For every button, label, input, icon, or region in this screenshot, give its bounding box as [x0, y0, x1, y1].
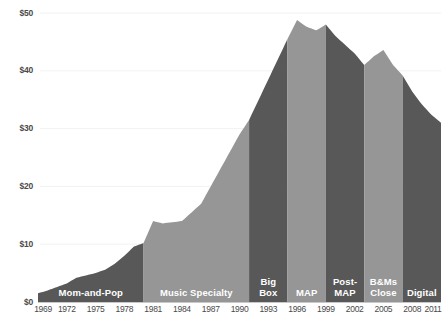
area-band-map	[287, 20, 325, 302]
x-tick-label: 1975	[87, 304, 105, 314]
x-tick-label: 1984	[173, 304, 191, 314]
area-band-mom-and-pop	[38, 243, 144, 302]
area-band-post-map	[326, 25, 364, 302]
y-tick-label: $10	[19, 240, 33, 249]
y-tick-label: $40	[19, 66, 33, 75]
x-tick-label: 1993	[259, 304, 277, 314]
x-tick-label: 1972	[58, 304, 76, 314]
x-tick-label: 1987	[202, 304, 220, 314]
x-tick-label: 1978	[115, 304, 133, 314]
area-band-music-specialty	[144, 120, 250, 302]
x-tick-label: 2002	[346, 304, 364, 314]
x-tick-label: 2008	[403, 304, 421, 314]
x-tick-label: 1981	[144, 304, 162, 314]
y-tick-label: $50	[19, 9, 33, 18]
x-tick-label: 2005	[375, 304, 393, 314]
x-tick-label: 1996	[288, 304, 306, 314]
area-band-big-box	[249, 39, 287, 302]
x-axis: 1969197219751978198119841987199019931996…	[0, 304, 441, 322]
area-band-digital	[403, 75, 441, 302]
x-tick-label: 1969	[34, 304, 52, 314]
y-tick-label: $20	[19, 182, 33, 191]
x-tick-label: 1990	[231, 304, 249, 314]
area-series-bands	[38, 20, 441, 302]
x-tick-label: 2011	[424, 304, 441, 314]
x-tick-label: 1999	[317, 304, 335, 314]
area-band-bms-close	[364, 50, 402, 302]
y-tick-label: $30	[19, 124, 33, 133]
y-axis: $0$10$20$30$40$50	[0, 0, 38, 310]
